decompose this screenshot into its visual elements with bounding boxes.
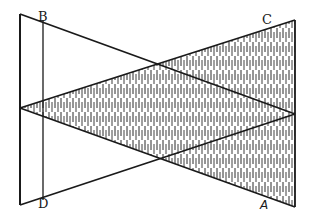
shaded-wedge — [20, 20, 295, 207]
label-a: A — [260, 199, 268, 211]
geometry-diagram — [0, 0, 311, 223]
label-d: D — [38, 197, 48, 210]
label-c: C — [262, 13, 272, 26]
label-b: B — [38, 10, 48, 23]
